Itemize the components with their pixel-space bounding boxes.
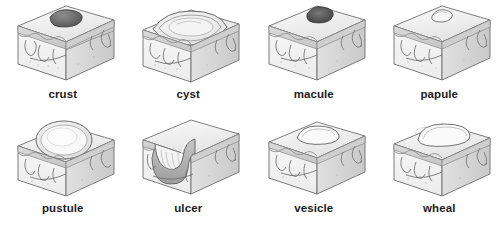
lesion-label-cyst: cyst: [177, 89, 200, 101]
lesion-label-crust: crust: [48, 89, 77, 101]
lesion-cell-ulcer: ulcer: [126, 114, 252, 228]
lesion-label-ulcer: ulcer: [174, 203, 202, 215]
lesion-cell-wheal: wheal: [377, 114, 502, 228]
lesion-cell-pustule: pustule: [0, 114, 126, 228]
lesion-illustration-cyst: [129, 0, 247, 88]
lesion-label-vesicle: vesicle: [294, 203, 333, 215]
lesion-cell-macule: macule: [251, 0, 377, 114]
lesion-illustration-macule: [255, 0, 373, 88]
lesion-illustration-pustule: [4, 114, 122, 202]
lesion-cell-crust: crust: [0, 0, 126, 114]
lesion-illustration-ulcer: [129, 114, 247, 202]
skin-lesion-figure-grid: crust: [0, 0, 502, 228]
lesion-cell-papule: papule: [377, 0, 502, 114]
lesion-label-wheal: wheal: [423, 203, 455, 215]
lesion-label-macule: macule: [294, 89, 334, 101]
lesion-illustration-papule: [380, 0, 498, 88]
lesion-label-papule: papule: [420, 89, 458, 101]
lesion-illustration-crust: [4, 0, 122, 88]
lesion-illustration-wheal: [380, 114, 498, 202]
lesion-cell-cyst: cyst: [126, 0, 252, 114]
lesion-cell-vesicle: vesicle: [251, 114, 377, 228]
lesion-label-pustule: pustule: [42, 203, 84, 215]
lesion-illustration-vesicle: [255, 114, 373, 202]
